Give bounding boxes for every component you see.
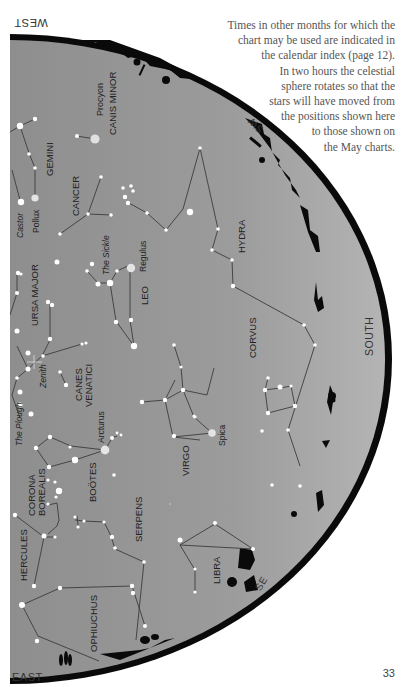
label-serpens: SERPENS: [133, 497, 144, 542]
label-procyon: Procyon: [95, 83, 105, 116]
caption-line: sphere rotates so that the: [155, 79, 395, 94]
caption-line: In two hours the celestial: [155, 64, 395, 79]
label-canis-minor: CANIS MINOR: [107, 72, 118, 135]
label-the-sickle: The Sickle: [101, 235, 111, 275]
label-virgo: VIRGO: [180, 445, 191, 476]
compass-east: EAST: [12, 671, 43, 683]
label-regulus: Regulus: [138, 241, 148, 272]
label-gemini: GEMINI: [44, 142, 55, 176]
label-cancer: CANCER: [70, 176, 81, 216]
label-hydra: HYDRA: [236, 219, 247, 253]
label-libra: LIBRA: [211, 556, 222, 584]
label-bootes: BOÖTES: [87, 462, 98, 502]
label-spica: Spica: [217, 424, 227, 446]
label-castor: Castor: [15, 212, 25, 238]
chart-caption: Times in other months for which the char…: [155, 18, 395, 155]
label-corvus: CORVUS: [247, 318, 258, 358]
label-ophiuchus: OPHIUCHUS: [88, 595, 99, 652]
label-hercules: HERCULES: [18, 529, 29, 581]
caption-line: the May charts.: [155, 140, 395, 155]
caption-line: the calendar index (page 12).: [155, 48, 395, 63]
label-arcturus: Arcturus: [96, 411, 106, 443]
caption-line: the positions shown here: [155, 109, 395, 124]
caption-line: to those shown on: [155, 124, 395, 139]
page-number: 33: [383, 667, 395, 679]
label-the-plough: The Plough: [14, 402, 24, 446]
label-leo: LEO: [139, 286, 150, 305]
caption-line: stars will have moved from: [155, 94, 395, 109]
label-ursa-major: URSA MAJOR: [29, 264, 40, 326]
label-canes-venatici-2: VENATICI: [83, 364, 94, 407]
compass-south: SOUTH: [363, 317, 375, 356]
label-pollux: Pollux: [31, 209, 41, 233]
label-corona-2: BOREALIS: [36, 468, 47, 516]
caption-line: Times in other months for which the: [155, 18, 395, 33]
compass-west: WEST: [14, 17, 48, 29]
caption-line: chart may be used are indicated in: [155, 33, 395, 48]
label-zenith: Zenith: [38, 364, 48, 389]
